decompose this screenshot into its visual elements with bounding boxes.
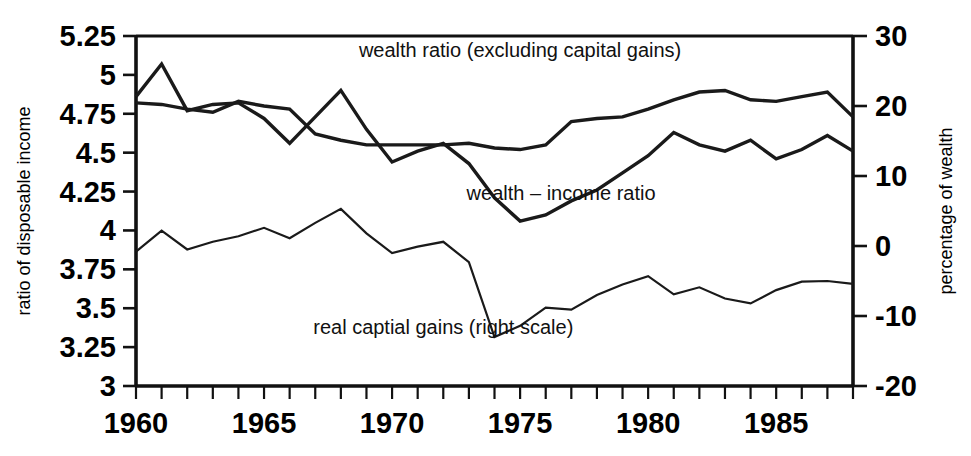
left-tick-label-4.75: 4.75: [60, 98, 116, 130]
left-tick-label-3.5: 3.5: [76, 292, 116, 324]
left-tick-label-5.25: 5.25: [60, 20, 116, 52]
left-axis-title: ratio of disposable income: [14, 106, 34, 315]
x-axis-tick-labels: 196019651970197519801985: [104, 407, 809, 439]
series-annotations: wealth ratio (excluding capital gains)we…: [313, 39, 681, 338]
left-axis-tick-labels: 33.253.53.7544.254.54.7555.25: [60, 20, 116, 402]
right-tick-label-30: 30: [875, 20, 907, 52]
left-tick-label-3: 3: [100, 370, 116, 402]
left-tick-label-3.75: 3.75: [60, 253, 116, 285]
left-tick-label-5: 5: [100, 59, 116, 91]
chart-figure: 33.253.53.7544.254.54.7555.25 -20-100102…: [0, 0, 971, 456]
right-tick-label--20: -20: [875, 370, 917, 402]
series-label-0: wealth ratio (excluding capital gains): [358, 39, 681, 61]
right-tick-label-10: 10: [875, 160, 907, 192]
x-tick-label-1985: 1985: [744, 407, 809, 439]
left-tick-label-4: 4: [100, 214, 116, 246]
right-tick-label-0: 0: [875, 230, 891, 262]
right-axis-tick-labels: -20-100102030: [875, 20, 917, 402]
right-tick-label--10: -10: [875, 300, 917, 332]
x-tick-label-1980: 1980: [616, 407, 681, 439]
series-label-1: wealth – income ratio: [466, 182, 656, 204]
right-tick-label-20: 20: [875, 90, 907, 122]
left-tick-label-4.5: 4.5: [76, 137, 116, 169]
right-axis-title: percentage of wealth: [936, 127, 956, 294]
x-tick-label-1975: 1975: [488, 407, 553, 439]
left-tick-label-4.25: 4.25: [60, 176, 116, 208]
left-tick-label-3.25: 3.25: [60, 331, 116, 363]
series-label-2: real captial gains (right scale): [313, 316, 573, 338]
x-tick-label-1970: 1970: [360, 407, 425, 439]
line-chart: 33.253.53.7544.254.54.7555.25 -20-100102…: [0, 0, 971, 456]
right-axis-ticks: [853, 36, 867, 386]
left-axis-ticks: [123, 36, 136, 386]
x-axis-ticks: [136, 386, 853, 399]
x-tick-label-1960: 1960: [104, 407, 169, 439]
x-tick-label-1965: 1965: [232, 407, 297, 439]
